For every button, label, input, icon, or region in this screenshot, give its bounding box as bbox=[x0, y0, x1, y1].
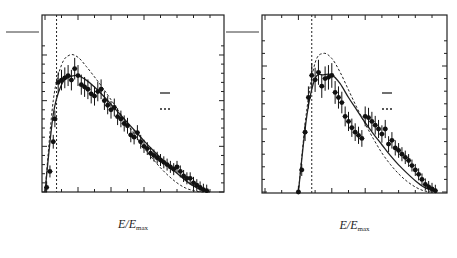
data-point bbox=[413, 168, 418, 173]
data-point bbox=[373, 123, 378, 128]
data-point bbox=[313, 77, 318, 82]
data-point bbox=[303, 130, 308, 135]
data-point bbox=[76, 73, 81, 78]
x-axis-label: E/Emax bbox=[338, 218, 370, 233]
data-point bbox=[178, 169, 183, 174]
data-point bbox=[366, 115, 371, 120]
data-point bbox=[299, 168, 304, 173]
data-point bbox=[359, 136, 364, 141]
data-point bbox=[175, 164, 180, 169]
data-point bbox=[416, 172, 421, 177]
data-point bbox=[102, 98, 107, 103]
data-point bbox=[349, 125, 354, 130]
data-point bbox=[390, 138, 395, 143]
data-point bbox=[66, 73, 71, 78]
data-point bbox=[369, 119, 374, 124]
data-point bbox=[112, 105, 117, 110]
data-point bbox=[296, 190, 301, 195]
data-point bbox=[105, 103, 110, 108]
data-point bbox=[132, 135, 137, 140]
data-point bbox=[336, 95, 341, 100]
data-point bbox=[339, 100, 344, 105]
x-axis-label: E/Emax bbox=[117, 217, 149, 232]
data-point bbox=[333, 90, 338, 95]
data-point bbox=[346, 119, 351, 124]
data-point bbox=[125, 123, 130, 128]
data-point bbox=[99, 87, 104, 92]
data-point bbox=[51, 139, 56, 144]
data-point bbox=[53, 117, 58, 122]
data-point bbox=[376, 127, 381, 132]
data-point bbox=[72, 66, 77, 71]
data-point bbox=[69, 78, 74, 83]
data-point bbox=[316, 70, 321, 75]
data-point bbox=[386, 142, 391, 147]
data-point bbox=[119, 117, 124, 122]
data-point bbox=[44, 185, 49, 190]
data-point bbox=[319, 84, 324, 89]
plot-frame bbox=[42, 15, 224, 192]
data-point bbox=[396, 148, 401, 153]
data-point bbox=[92, 94, 97, 99]
data-point bbox=[188, 176, 193, 181]
data-point bbox=[433, 188, 438, 193]
data-point bbox=[406, 158, 411, 163]
data-point bbox=[420, 177, 425, 182]
data-point bbox=[380, 132, 385, 137]
chart-panel-b: E/Emax bbox=[226, 15, 447, 233]
data-point bbox=[145, 146, 150, 151]
data-point bbox=[410, 163, 415, 168]
data-point bbox=[86, 87, 91, 92]
plot-frame bbox=[262, 15, 447, 193]
data-point bbox=[306, 95, 311, 100]
data-point bbox=[135, 130, 140, 135]
data-point bbox=[48, 169, 53, 174]
data-point bbox=[309, 73, 314, 78]
chart-panel-a: E/Emax bbox=[6, 15, 224, 232]
data-point bbox=[138, 139, 143, 144]
data-point bbox=[329, 73, 334, 78]
data-point bbox=[204, 188, 209, 193]
chart-figure: E/EmaxE/Emax bbox=[0, 0, 457, 258]
data-point bbox=[383, 127, 388, 132]
data-point bbox=[343, 114, 348, 119]
